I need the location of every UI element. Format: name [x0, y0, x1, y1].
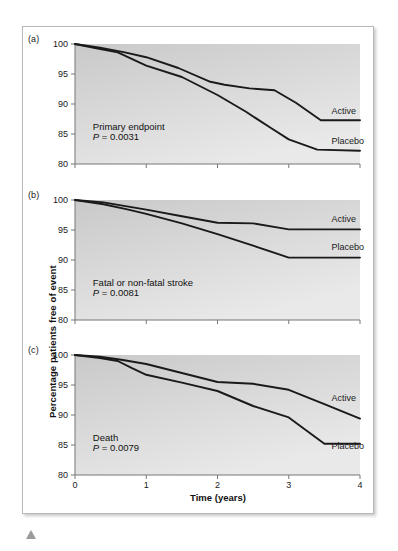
- panel-b: 80859095100ActivePlaceboFatal or non-fat…: [40, 194, 374, 334]
- y-tick-label: 85: [58, 285, 68, 295]
- panel-c: 8085909510001234ActivePlaceboDeathP = 0.…: [40, 349, 374, 489]
- y-tick-label: 90: [58, 410, 68, 420]
- plot-background: [75, 200, 360, 320]
- x-tick-label: 3: [286, 480, 291, 489]
- panel-pvalue: P = 0.0031: [93, 131, 139, 142]
- series-label-active: Active: [332, 214, 357, 224]
- y-tick-label: 95: [58, 69, 68, 79]
- y-tick-label: 80: [58, 159, 68, 169]
- y-tick-label: 100: [53, 195, 68, 205]
- plot-background: [75, 44, 360, 164]
- y-tick-label: 80: [58, 315, 68, 325]
- y-tick-label: 95: [58, 380, 68, 390]
- series-label-placebo: Placebo: [332, 242, 365, 252]
- x-tick-label: 2: [215, 480, 220, 489]
- x-axis-label: Time (years): [75, 492, 361, 506]
- plot-b: 80859095100ActivePlaceboFatal or non-fat…: [40, 194, 374, 334]
- panel-a: 80859095100ActivePlaceboPrimary endpoint…: [40, 38, 374, 178]
- x-tick-label: 0: [72, 480, 77, 489]
- y-tick-label: 100: [53, 350, 68, 360]
- panel-pvalue: P = 0.0081: [93, 287, 139, 298]
- figure-marker-triangle: [26, 530, 36, 539]
- plot-c: 8085909510001234ActivePlaceboDeathP = 0.…: [40, 349, 374, 489]
- y-tick-label: 80: [58, 470, 68, 480]
- y-tick-label: 100: [53, 39, 68, 49]
- y-tick-label: 90: [58, 99, 68, 109]
- y-tick-label: 90: [58, 255, 68, 265]
- series-label-placebo: Placebo: [332, 136, 365, 146]
- x-tick-label: 4: [357, 480, 362, 489]
- plot-background: [75, 355, 360, 475]
- plot-a: 80859095100ActivePlaceboPrimary endpoint…: [40, 38, 374, 178]
- x-tick-label: 1: [144, 480, 149, 489]
- series-label-placebo: Placebo: [332, 441, 365, 451]
- panel-label-a: (a): [28, 34, 39, 44]
- series-label-active: Active: [332, 106, 357, 116]
- y-tick-label: 85: [58, 440, 68, 450]
- panel-pvalue: P = 0.0079: [93, 442, 139, 453]
- y-tick-label: 95: [58, 225, 68, 235]
- y-tick-label: 85: [58, 129, 68, 139]
- series-label-active: Active: [332, 393, 357, 403]
- x-axis-label-text: Time (years): [75, 492, 361, 503]
